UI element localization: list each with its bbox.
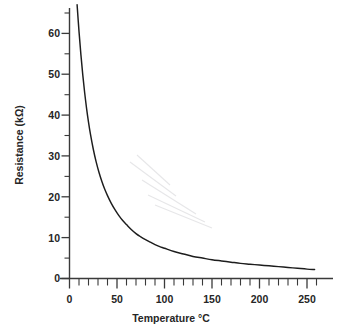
x-tick-label-150: 150 — [192, 294, 232, 305]
x-axis-major-ticks — [70, 279, 308, 289]
y-tick-label-0: 0 — [26, 273, 60, 284]
x-tick-label-50: 50 — [97, 294, 137, 305]
x-tick-label-200: 200 — [240, 294, 280, 305]
y-tick-label-60: 60 — [26, 28, 60, 39]
y-tick-label-50: 50 — [26, 69, 60, 80]
scan-smudge-marks — [130, 155, 212, 228]
x-tick-label-0: 0 — [50, 294, 90, 305]
y-tick-label-30: 30 — [26, 151, 60, 162]
resistance-temperature-curve — [77, 5, 315, 270]
chart-plot-area: Resistance (kΩ) — [0, 0, 342, 334]
chart-figure: Resistance (kΩ) 60 50 40 30 20 10 0 0 50… — [0, 0, 342, 334]
y-tick-label-40: 40 — [26, 110, 60, 121]
y-tick-label-10: 10 — [26, 233, 60, 244]
y-axis-title: Resistance (kΩ) — [13, 105, 25, 185]
y-tick-label-20: 20 — [26, 192, 60, 203]
x-axis-minor-ticks — [79, 279, 317, 286]
y-axis-major-ticks — [62, 33, 70, 278]
y-axis-minor-ticks — [65, 13, 70, 258]
x-axis-title: Temperature °C — [0, 312, 342, 324]
x-tick-label-250: 250 — [287, 294, 327, 305]
x-tick-label-100: 100 — [145, 294, 185, 305]
